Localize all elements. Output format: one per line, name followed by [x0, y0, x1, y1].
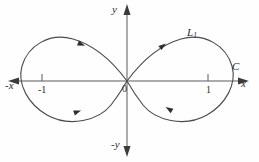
diagram-canvas: [0, 0, 259, 162]
y-axis-top-arrowhead: [124, 4, 131, 15]
axis-label-x: x: [241, 78, 246, 89]
curve-label-subscript: 1: [193, 31, 197, 40]
direction-arrow-lower-left: [73, 108, 82, 115]
x-tick-label-one: 1: [206, 85, 211, 95]
axis-label-negative-x: -x: [5, 80, 14, 91]
x-tick-label-neg-one: -1: [38, 85, 46, 95]
point-label-c: C: [232, 61, 239, 72]
axis-label-negative-y: -y: [111, 139, 120, 150]
curve-label-l1: L1: [187, 27, 197, 38]
direction-arrow-lower-right: [164, 105, 173, 113]
axis-label-y: y: [112, 4, 117, 15]
lemniscate-diagram: -x x y -y -1 1 0 L1 C: [0, 0, 259, 162]
y-axis-bottom-arrowhead: [124, 146, 131, 157]
origin-label: 0: [122, 84, 127, 94]
